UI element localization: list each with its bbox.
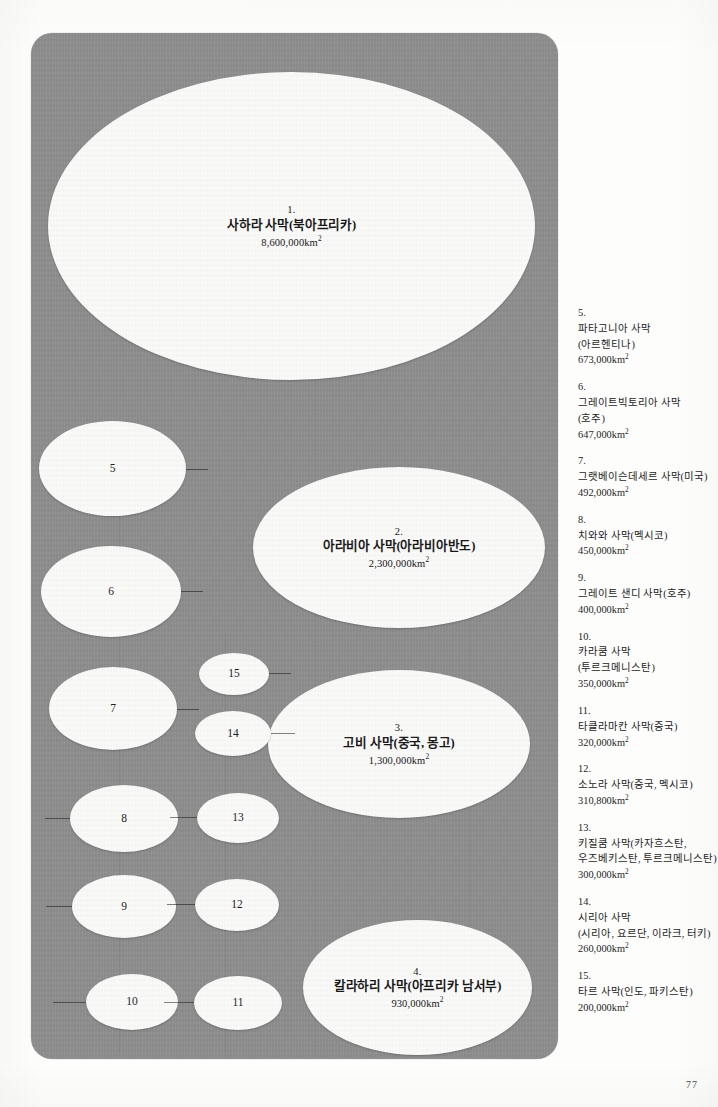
alignment-line: [119, 453, 120, 1053]
ellipse-7-number: 7: [110, 701, 116, 716]
legend-item-12[interactable]: 12. 소노라 사막(중국, 멕시코) 310,800km2: [578, 761, 718, 809]
legend-11-number: 11.: [578, 703, 718, 719]
leader-line-6: [181, 591, 203, 592]
legend-8-number: 8.: [578, 512, 718, 528]
ellipse-desert-3[interactable]: 3. 고비 사막(중국, 몽고) 1,300,000km2: [268, 670, 530, 818]
legend-12-number: 12.: [578, 761, 718, 777]
ellipse-13-number: 13: [232, 810, 244, 825]
ellipse-desert-9[interactable]: 9: [72, 875, 176, 938]
legend-10-number: 10.: [578, 629, 718, 645]
ellipse-desert-5[interactable]: 5: [39, 421, 186, 516]
legend-13-number: 13.: [578, 820, 718, 836]
ellipse-desert-8[interactable]: 8: [70, 785, 178, 852]
leader-line-14: [271, 733, 295, 734]
ellipse-3-number: 3.: [395, 721, 403, 735]
ellipse-1-number: 1.: [287, 203, 295, 217]
legend-14-line-1: 시리아 사막: [578, 910, 718, 926]
legend-13-area: 300,000km2: [578, 867, 718, 883]
ellipse-3-area: 1,300,000km2: [369, 752, 429, 767]
legend-item-15[interactable]: 15. 타르 사막(인도, 파키스탄) 200,000km2: [578, 968, 718, 1016]
ellipse-desert-4[interactable]: 4. 칼라하리 사막(아프리카 남서부) 930,000km2: [303, 920, 532, 1055]
legend-11-line-1: 타클라마칸 사막(중국): [578, 719, 718, 735]
ellipse-10-number: 10: [126, 994, 138, 1009]
ellipse-4-name: 칼라하리 사막(아프리카 남서부): [334, 978, 501, 995]
legend-14-number: 14.: [578, 894, 718, 910]
ellipse-desert-2[interactable]: 2. 아라비아 사막(아라비아반도) 2,300,000km2: [253, 467, 545, 628]
desert-comparison-panel: 1. 사하라 사막(북아프리카) 8,600,000km2 2. 아라비아 사막…: [31, 33, 558, 1059]
leader-line-8: [45, 818, 70, 819]
legend-6-line-2: (호주): [578, 411, 718, 427]
legend-13-line-2: 우즈베키스탄, 투르크메니스탄): [578, 851, 718, 867]
legend-9-area: 400,000km2: [578, 602, 718, 618]
ellipse-9-number: 9: [121, 899, 127, 914]
leader-line-11: [164, 1002, 194, 1003]
legend-10-line-2: (투르크메니스탄): [578, 660, 718, 676]
legend-5-line-2: (아르헨티나): [578, 337, 718, 353]
ellipse-4-number: 4.: [413, 965, 421, 979]
legend-6-number: 6.: [578, 379, 718, 395]
leader-line-15: [269, 673, 291, 674]
legend-item-5[interactable]: 5. 파타고니아 사막 (아르헨티나) 673,000km2: [578, 305, 718, 369]
ellipse-desert-14[interactable]: 14: [195, 711, 271, 756]
ellipse-14-number: 14: [227, 726, 239, 741]
legend-14-line-2: (시리아, 요르단, 이라크, 터키): [578, 926, 718, 942]
legend-5-number: 5.: [578, 305, 718, 321]
legend-14-area: 260,000km2: [578, 941, 718, 957]
legend-item-13[interactable]: 13. 키질쿰 사막(카자흐스탄, 우즈베키스탄, 투르크메니스탄) 300,0…: [578, 820, 718, 884]
legend-13-line-1: 키질쿰 사막(카자흐스탄,: [578, 836, 718, 852]
page-number: 77: [686, 1079, 698, 1090]
legend-15-line-1: 타르 사막(인도, 파키스탄): [578, 984, 718, 1000]
ellipse-desert-11[interactable]: 11: [194, 976, 282, 1030]
legend-7-area: 492,000km2: [578, 485, 718, 501]
legend-9-number: 9.: [578, 570, 718, 586]
legend-9-line-1: 그레이트 샌디 사막(호주): [578, 586, 718, 602]
legend-8-line-1: 치와와 사막(멕시코): [578, 528, 718, 544]
legend-10-line-1: 카라쿰 사막: [578, 644, 718, 660]
ellipse-3-name: 고비 사막(중국, 몽고): [343, 735, 454, 752]
ellipse-desert-1[interactable]: 1. 사하라 사막(북아프리카) 8,600,000km2: [48, 72, 535, 380]
ellipse-8-number: 8: [121, 811, 127, 826]
ellipse-11-number: 11: [232, 995, 243, 1010]
legend-6-area: 647,000km2: [578, 427, 718, 443]
legend-item-9[interactable]: 9. 그레이트 샌디 사막(호주) 400,000km2: [578, 570, 718, 618]
ellipse-desert-13[interactable]: 13: [197, 793, 279, 843]
desert-legend-list: 5. 파타고니아 사막 (아르헨티나) 673,000km2 6. 그레이트빅토…: [578, 305, 718, 1027]
leader-line-7: [177, 709, 199, 710]
leader-line-12: [167, 904, 195, 905]
ellipse-6-number: 6: [108, 584, 114, 599]
leader-line-5: [186, 469, 208, 470]
ellipse-1-name: 사하라 사막(북아프리카): [227, 217, 356, 234]
legend-6-line-1: 그레이트빅토리아 사막: [578, 395, 718, 411]
legend-5-line-1: 파타고니아 사막: [578, 321, 718, 337]
ellipse-desert-6[interactable]: 6: [41, 546, 181, 637]
ellipse-1-area: 8,600,000km2: [261, 234, 321, 249]
legend-12-area: 310,800km2: [578, 793, 718, 809]
legend-7-number: 7.: [578, 453, 718, 469]
ellipse-2-name: 아라비아 사막(아라비아반도): [323, 538, 476, 555]
ellipse-desert-7[interactable]: 7: [49, 667, 177, 750]
legend-12-line-1: 소노라 사막(중국, 멕시코): [578, 777, 718, 793]
legend-11-area: 320,000km2: [578, 735, 718, 751]
ellipse-4-area: 930,000km2: [391, 995, 443, 1010]
ellipse-15-number: 15: [228, 666, 240, 681]
legend-item-8[interactable]: 8. 치와와 사막(멕시코) 450,000km2: [578, 512, 718, 560]
leader-line-9: [46, 906, 72, 907]
legend-item-7[interactable]: 7. 그랫베이슨데세르 사막(미국) 492,000km2: [578, 453, 718, 501]
legend-item-6[interactable]: 6. 그레이트빅토리아 사막 (호주) 647,000km2: [578, 379, 718, 443]
ellipse-desert-15[interactable]: 15: [199, 653, 269, 695]
ellipse-2-number: 2.: [395, 525, 403, 539]
legend-10-area: 350,000km2: [578, 676, 718, 692]
ellipse-12-number: 12: [231, 897, 243, 912]
ellipse-desert-12[interactable]: 12: [195, 879, 279, 931]
legend-15-number: 15.: [578, 968, 718, 984]
leader-line-13: [170, 817, 197, 818]
legend-5-area: 673,000km2: [578, 352, 718, 368]
ellipse-5-number: 5: [110, 461, 116, 476]
leader-line-10: [53, 1002, 86, 1003]
legend-8-area: 450,000km2: [578, 543, 718, 559]
legend-15-area: 200,000km2: [578, 1000, 718, 1016]
legend-item-11[interactable]: 11. 타클라마칸 사막(중국) 320,000km2: [578, 703, 718, 751]
legend-item-10[interactable]: 10. 카라쿰 사막 (투르크메니스탄) 350,000km2: [578, 629, 718, 693]
legend-item-14[interactable]: 14. 시리아 사막 (시리아, 요르단, 이라크, 터키) 260,000km…: [578, 894, 718, 958]
ellipse-2-area: 2,300,000km2: [369, 555, 429, 570]
